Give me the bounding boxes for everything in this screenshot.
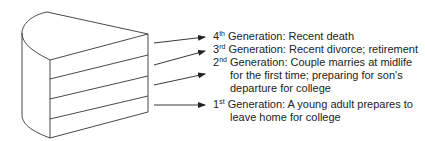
arrows (154, 37, 205, 105)
cake-front-face (50, 34, 148, 138)
label-1st-generation-cont-1: leave home for college (230, 111, 341, 124)
cake-slice (22, 12, 148, 138)
label-4th-generation: 4th Generation: Recent death (213, 30, 354, 43)
cake-top-face (22, 12, 148, 60)
layer-line-2 (50, 76, 148, 99)
arrow-4th (154, 37, 205, 43)
label-3rd-generation: 3rd Generation: Recent divorce; retireme… (213, 43, 418, 56)
label-1st-generation: 1st Generation: A young adult prepares t… (213, 98, 413, 111)
label-2nd-generation: 2nd Generation: Couple marries at midlif… (213, 56, 412, 69)
cake-round-side (22, 33, 50, 138)
label-2nd-generation-cont-2: departure for college (230, 82, 331, 95)
label-2nd-generation-cont-1: for the first time; preparing for son's (230, 69, 403, 82)
arrow-2nd (154, 74, 205, 85)
layer-line-1 (50, 55, 148, 79)
arrow-3rd (154, 51, 205, 65)
